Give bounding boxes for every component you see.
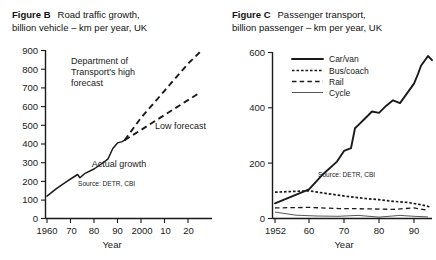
annotation-line-3: forecast <box>71 78 104 88</box>
y-tick-label: 800 <box>22 64 38 75</box>
series-car-van <box>275 56 432 203</box>
y-tick-label: 500 <box>22 120 38 131</box>
series-rail <box>275 207 428 210</box>
annotation-line-2: Transport's high <box>71 67 135 77</box>
x-axis-title: Year <box>334 239 353 250</box>
y-axis-labels: 600 400 200 0 <box>249 47 265 224</box>
x-axis-labels: 1960 70 80 90 2000 10 20 <box>36 225 193 236</box>
x-tick-label: 60 <box>304 225 315 236</box>
x-tick-label: 1960 <box>36 225 57 236</box>
y-tick-label: 100 <box>22 194 38 205</box>
annotation-actual-growth: Actual growth <box>92 159 147 169</box>
legend: Car/van Bus/coach Rail Cycle <box>292 54 369 98</box>
y-tick-label: 400 <box>22 138 38 149</box>
figure-c-chart: 600 400 200 0 1952 60 70 80 90 Ye <box>218 0 436 260</box>
y-tick-label: 600 <box>22 101 38 112</box>
legend-label-rail: Rail <box>329 77 344 87</box>
y-tick-label: 700 <box>22 82 38 93</box>
annotation-low-forecast: Low forecast <box>155 121 207 131</box>
x-tick-label: 70 <box>66 225 77 236</box>
source-note: Source: DETR, CBI <box>78 180 135 187</box>
series-cycle <box>275 212 428 217</box>
y-tick-label: 0 <box>260 213 265 224</box>
x-tick-label: 10 <box>160 225 171 236</box>
legend-label-cycle: Cycle <box>329 88 351 98</box>
legend-label-bus-coach: Bus/coach <box>329 66 369 76</box>
legend-label-car-van: Car/van <box>329 54 359 64</box>
source-note: Source: DETR, CBI <box>318 171 375 178</box>
y-tick-label: 200 <box>249 158 265 169</box>
x-axis-labels: 1952 60 70 80 90 <box>265 225 419 236</box>
y-tick-label: 200 <box>22 176 38 187</box>
y-tick-label: 900 <box>22 45 38 56</box>
x-axis-title: Year <box>102 239 121 250</box>
y-tick-label: 600 <box>249 47 265 58</box>
series-low-forecast <box>125 93 200 141</box>
figure-c-panel: Figure CPassenger transport, billion pas… <box>218 0 436 260</box>
x-tick-label: 90 <box>112 225 123 236</box>
x-tick-label: 80 <box>89 225 100 236</box>
y-axis-labels: 900 800 700 600 500 400 300 200 100 0 <box>22 45 38 224</box>
x-tick-label: 90 <box>409 225 420 236</box>
y-tick-label: 0 <box>33 213 38 224</box>
figure-b-chart: 900 800 700 600 500 400 300 200 100 0 <box>0 0 218 260</box>
figures-page: Figure BRoad traffic growth, billion veh… <box>0 0 436 260</box>
y-tick-label: 300 <box>22 157 38 168</box>
annotation-high-forecast: Department of Transport's high forecast <box>71 56 135 88</box>
figure-b-panel: Figure BRoad traffic growth, billion veh… <box>0 0 218 260</box>
annotation-line-1: Department of <box>71 56 129 66</box>
x-tick-label: 20 <box>183 225 194 236</box>
x-tick-label: 2000 <box>131 225 152 236</box>
x-tick-label: 1952 <box>265 225 286 236</box>
x-tick-label: 70 <box>339 225 350 236</box>
y-tick-label: 400 <box>249 102 265 113</box>
x-tick-label: 80 <box>374 225 385 236</box>
